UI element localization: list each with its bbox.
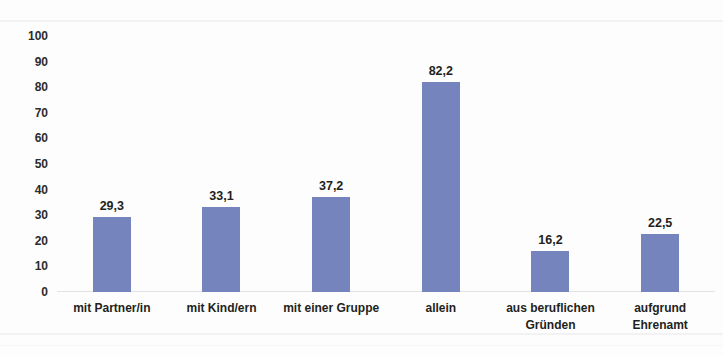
x-axis-category-line: aus beruflichen [496,300,606,317]
bar-value-label: 16,2 [538,233,562,247]
x-axis-category-label: mit Partner/in [57,300,167,317]
x-axis-category-label: mit einer Gruppe [276,300,386,317]
y-axis-tick-label: 50 [8,157,48,171]
bar-chart: 1009080706050403020100 29,333,137,282,21… [0,0,723,357]
bar [93,217,131,292]
bar-value-label: 29,3 [100,199,124,213]
x-axis-category-label: allein [386,300,496,317]
x-axis-category-line: mit einer Gruppe [276,300,386,317]
bar [312,197,350,292]
x-axis-category-label: mit Kind/ern [167,300,277,317]
y-axis-tick-label: 80 [8,80,48,94]
y-axis: 1009080706050403020100 [8,29,48,299]
x-axis-category-line: mit Partner/in [57,300,167,317]
bar-value-label: 22,5 [648,216,672,230]
y-axis-tick-label: 100 [8,29,48,43]
x-axis-category-label: aufgrundEhrenamt [605,300,715,334]
x-axis: mit Partner/inmit Kind/ernmit einer Grup… [57,300,715,350]
bar-group: 29,3 [57,36,167,292]
bar-series: 29,333,137,282,216,222,5 [57,36,715,292]
bar [641,234,679,292]
bar-value-label: 33,1 [209,189,233,203]
y-axis-tick-label: 30 [8,208,48,222]
bar-group: 82,2 [386,36,496,292]
scan-artifact-top [0,20,723,22]
x-axis-category-line: Ehrenamt [605,317,715,334]
bar-value-label: 37,2 [319,179,343,193]
x-axis-category-line: aufgrund [605,300,715,317]
bar-group: 37,2 [276,36,386,292]
bar [202,207,240,292]
bar [422,82,460,292]
y-axis-tick-label: 40 [8,183,48,197]
y-axis-tick-label: 20 [8,234,48,248]
y-axis-tick-label: 0 [8,285,48,299]
y-axis-tick-label: 70 [8,106,48,120]
bar-value-label: 82,2 [429,64,453,78]
x-axis-category-line: Gründen [496,317,606,334]
x-axis-category-line: allein [386,300,496,317]
bar-group: 22,5 [605,36,715,292]
x-axis-category-label: aus beruflichenGründen [496,300,606,334]
bar-group: 33,1 [167,36,277,292]
y-axis-tick-label: 90 [8,55,48,69]
bar-group: 16,2 [496,36,606,292]
y-axis-tick-label: 60 [8,131,48,145]
y-axis-tick-label: 10 [8,259,48,273]
bar [531,251,569,292]
x-axis-category-line: mit Kind/ern [167,300,277,317]
